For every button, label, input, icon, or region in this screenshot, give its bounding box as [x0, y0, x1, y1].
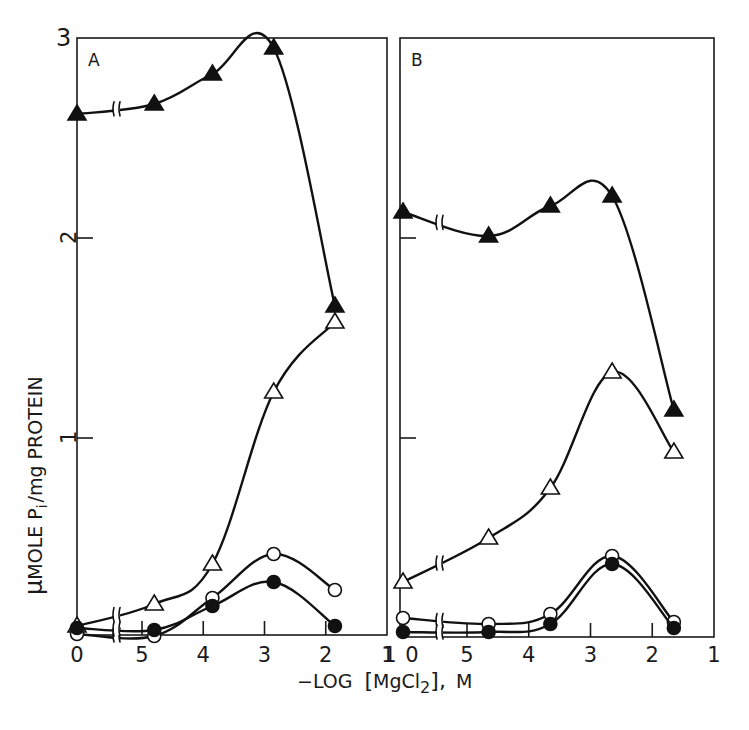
open-triangle-marker-icon [665, 443, 683, 458]
filled-triangle-marker-icon [203, 65, 221, 80]
open-triangle-marker-icon [203, 555, 221, 570]
open-triangle-marker-icon [265, 383, 283, 398]
panel-a-label: A [88, 50, 100, 70]
x-tick-label: 5 [460, 643, 473, 667]
x-tick-label: 0 [405, 643, 418, 667]
filled-triangle-marker-icon [665, 401, 683, 416]
x-tick-label: 4 [522, 643, 535, 667]
filled-triangle-marker-icon [326, 297, 344, 312]
series-line-filled-triangle [77, 33, 335, 306]
panel-a-frame [77, 38, 387, 635]
open-triangle-marker-icon [394, 573, 412, 588]
x-tick-label: 4 [197, 643, 210, 667]
open-triangle-marker-icon [480, 529, 498, 544]
filled-triangle-marker-icon [265, 39, 283, 54]
series-line-open-triangle [403, 372, 674, 582]
panel-a-x-ticks [142, 621, 326, 635]
panel-a-series [68, 33, 344, 642]
y-tick-label-3: 3 [56, 24, 71, 52]
x-tick-label: 2 [319, 643, 332, 667]
x-tick-label: 1 [383, 643, 396, 667]
panel-a: A [68, 33, 387, 642]
x-tick-label: 0 [70, 643, 83, 667]
filled-circle-marker-icon [71, 622, 84, 635]
open-triangle-marker-icon [326, 313, 344, 328]
x-tick-label: 3 [584, 643, 597, 667]
filled-circle-marker-icon [328, 620, 341, 633]
panel-b: B [394, 38, 714, 639]
open-circle-marker-icon [397, 612, 410, 625]
panel-b-label: B [411, 50, 423, 70]
x-axis-title: −LOG[MgCl2],M [297, 668, 472, 697]
filled-circle-marker-icon [544, 618, 557, 631]
y-axis-title: μMOLE Pi/mg PROTEIN [20, 376, 50, 595]
filled-triangle-marker-icon [541, 197, 559, 212]
filled-circle-marker-icon [206, 600, 219, 613]
filled-circle-marker-icon [397, 626, 410, 639]
filled-triangle-marker-icon [394, 203, 412, 218]
x-tick-label: 5 [135, 643, 148, 667]
filled-circle-marker-icon [606, 558, 619, 571]
panel-b-frame [400, 38, 714, 637]
filled-circle-marker-icon [482, 626, 495, 639]
open-circle-marker-icon [328, 584, 341, 597]
figure: A B 3 2 1 μMOLE Pi/mg PROTEIN −LOG[MgCl2… [0, 0, 749, 730]
open-triangle-marker-icon [541, 479, 559, 494]
x-tick-label: 1 [707, 643, 720, 667]
x-tick-label: 2 [646, 643, 659, 667]
filled-circle-marker-icon [667, 622, 680, 635]
x-tick-label: 3 [258, 643, 271, 667]
filled-circle-marker-icon [267, 576, 280, 589]
panel-b-series [394, 181, 683, 639]
open-circle-marker-icon [267, 548, 280, 561]
x-tick-labels: 0543210543211 [70, 643, 720, 667]
open-triangle-marker-icon [603, 363, 621, 378]
series-line-open-triangle [77, 322, 335, 626]
filled-circle-marker-icon [148, 624, 161, 637]
